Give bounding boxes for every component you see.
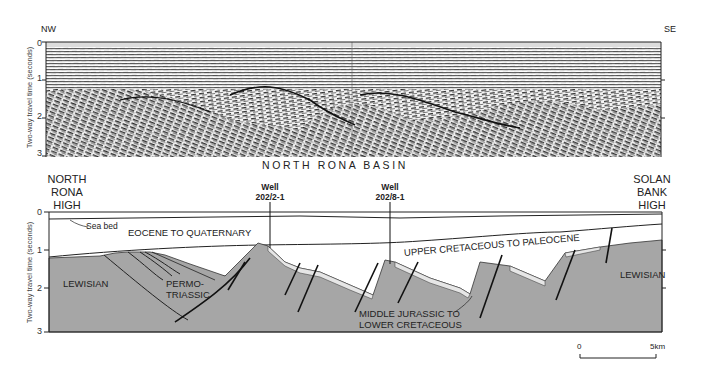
eocene-quaternary-label: EOCENE TO QUATERNARY	[128, 227, 251, 238]
middle-jurassic-label-1: MIDDLE JURASSIC TO	[359, 308, 460, 319]
middle-jurassic-label-2: LOWER CRETACEOUS	[359, 319, 462, 330]
lewisian-right-label: LEWISIAN	[620, 269, 665, 280]
scale-bar-end: 5km	[650, 342, 665, 351]
permo-triassic-label-1: PERMO-	[166, 278, 204, 289]
sea-bed-label: Sea bed	[86, 221, 118, 231]
lewisian-left-label: LEWISIAN	[63, 278, 108, 289]
scale-bar-start: 0	[577, 342, 581, 351]
cross-section-drawing	[0, 0, 701, 378]
permo-triassic-label-2: TRIASSIC	[166, 289, 210, 300]
